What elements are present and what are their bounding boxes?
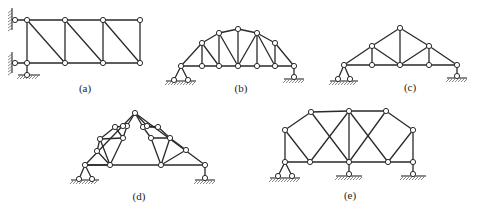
ground-hatch [449,79,452,82]
ground-hatch [17,76,20,79]
hinge-joint-icon [202,162,207,167]
ground-hatch [278,179,281,182]
hinge-joint-icon [454,62,459,67]
hinge-joint-icon [397,25,402,30]
wall-hatch [8,60,12,63]
hinge-joint-icon [454,73,459,78]
truss-member [285,130,310,162]
hinge-joint-icon [24,60,29,65]
hinge-joint-icon [171,77,176,82]
ground-hatch [412,177,415,180]
hinge-joint-icon [94,148,99,153]
hinge-joint-icon [132,110,137,115]
ground-hatch [272,179,275,182]
truss-member [388,130,413,162]
hinge-joint-icon [185,77,190,82]
ground-hatch [20,76,23,79]
hinge-joint-icon [254,63,259,68]
truss-member [181,43,202,66]
truss-member [311,111,349,112]
wall-hatch [8,22,12,25]
truss-member [429,46,457,65]
ground-hatch [344,177,347,180]
truss-panel-c [329,25,467,85]
ground-hatch [338,177,341,180]
hinge-joint-icon [346,159,351,164]
hinge-joint-icon [112,124,117,129]
hinge-joint-icon [12,17,17,22]
truss-member [400,28,429,46]
ground-hatch [350,82,353,85]
hinge-joint-icon [76,176,81,181]
ground-hatch [168,82,171,85]
hinge-joint-icon [410,171,415,176]
hinge-joint-icon [137,60,142,65]
hinge-joint-icon [308,109,313,114]
truss-member [100,138,123,139]
ground-hatch [400,177,403,180]
panel-label-d: (d) [133,190,146,203]
hinge-joint-icon [167,135,172,140]
hinge-joint-icon [82,162,87,167]
hinge-joint-icon [24,17,29,22]
hinge-joint-icon [89,176,94,181]
ground-hatch [455,79,458,82]
ground-hatch [341,177,344,180]
ground-hatch [212,181,215,184]
truss-member [400,46,429,65]
truss-member [219,33,238,66]
hinge-joint-icon [235,26,240,31]
hinge-joint-icon [383,108,388,113]
hinge-joint-icon [100,17,105,22]
ground-hatch [192,82,195,85]
truss-member [238,33,257,66]
ground-hatch [353,177,356,180]
panel-label-e: (e) [344,189,357,202]
ground-hatch [421,177,424,180]
truss-member [202,43,219,66]
hinge-joint-icon [144,123,149,128]
hinge-joint-icon [199,63,204,68]
ground-hatch [194,181,197,184]
ground-hatch [292,80,295,83]
ground-hatch [406,177,409,180]
hinge-joint-icon [291,74,296,79]
hinge-joint-icon [282,127,287,132]
hinge-joint-icon [137,17,142,22]
hinge-joint-icon [410,159,415,164]
ground-hatch [461,79,464,82]
ground-hatch [82,181,85,184]
ground-hatch [203,181,206,184]
ground-hatch [409,177,412,180]
hinge-joint-icon [216,63,221,68]
ground-hatch [353,82,356,85]
hinge-joint-icon [369,62,374,67]
hinge-joint-icon [346,171,351,176]
ground-hatch [296,179,299,182]
hinge-joint-icon [97,136,102,141]
hinge-joint-icon [148,135,153,140]
ground-hatch [347,82,350,85]
hinge-joint-icon [369,43,374,48]
ground-hatch [283,80,286,83]
wall-hatch [8,54,12,57]
ground-hatch [335,177,338,180]
truss-panel-e [269,108,426,182]
hinge-joint-icon [235,63,240,68]
truss-member [372,28,400,46]
hinge-joint-icon [12,60,17,65]
truss-panel-d [70,110,215,184]
ground-hatch [289,80,292,83]
hinge-joint-icon [216,30,221,35]
hinge-joint-icon [183,147,188,152]
wall-hatch [8,16,12,19]
ground-hatch [446,79,449,82]
ground-hatch [94,181,97,184]
wall-hatch [8,25,12,28]
truss-member [65,20,103,63]
ground-hatch [200,181,203,184]
truss-figure: (a) (b) (c) (d) (e) [0,0,480,210]
ground-hatch [338,82,341,85]
ground-hatch [344,82,347,85]
wall-hatch [8,72,12,75]
